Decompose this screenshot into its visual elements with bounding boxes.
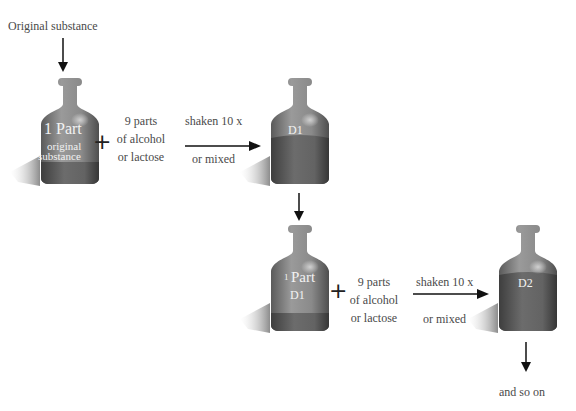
diluent-1-line1: 9 parts xyxy=(116,115,166,127)
diluent-2-line2: of alcohol xyxy=(349,294,399,306)
bottle1-main-label: 1 Part xyxy=(44,121,82,137)
plus-sign-2: + xyxy=(329,280,347,302)
down-arrow-icon xyxy=(58,38,68,72)
diluent-2-line1: 9 parts xyxy=(349,276,399,288)
bottle-d2-label: D2 xyxy=(518,277,533,289)
action-2-top: shaken 10 x xyxy=(416,276,473,288)
and-so-on-label: and so on xyxy=(499,386,545,398)
bottle-d1 xyxy=(240,76,330,190)
bottle1-sub-label-2: substance xyxy=(38,151,81,162)
original-substance-label: Original substance xyxy=(8,20,98,32)
diluent-1-line3: or lactose xyxy=(116,151,166,163)
plus-sign-1: + xyxy=(93,131,111,153)
bottle2-main-label-num: 1 xyxy=(284,273,289,282)
down-arrow-icon-2 xyxy=(294,193,304,221)
diluent-1-line2: of alcohol xyxy=(116,133,166,145)
diluent-2-line3: or lactose xyxy=(349,312,399,324)
action-1-top: shaken 10 x xyxy=(185,115,242,127)
action-1-bottom: or mixed xyxy=(192,153,235,165)
action-2-bottom: or mixed xyxy=(423,313,466,325)
bottle2-sub-label: D1 xyxy=(290,289,305,301)
bottle-d1-label: D1 xyxy=(288,124,303,136)
bottle2-main-label-word: Part xyxy=(291,270,315,285)
bottle-d2 xyxy=(468,223,558,337)
down-arrow-icon-3 xyxy=(521,342,531,372)
